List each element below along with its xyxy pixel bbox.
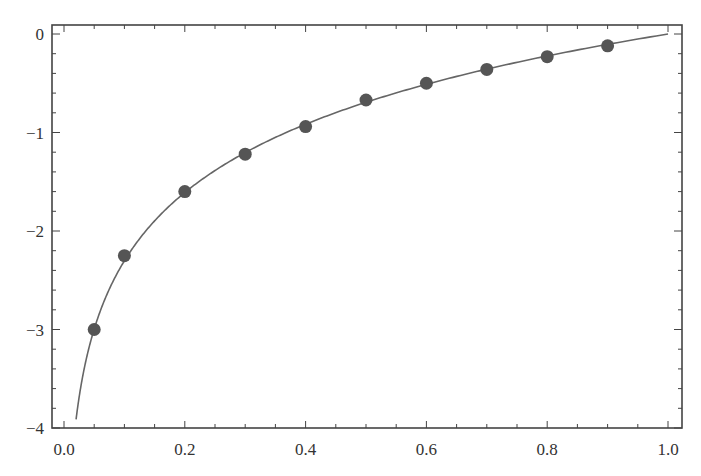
x-axis-ticks — [64, 25, 668, 428]
y-tick-label: −1 — [26, 124, 44, 143]
data-point — [178, 185, 191, 198]
x-axis-tick-labels: 0.00.20.40.60.81.0 — [53, 440, 678, 459]
y-tick-label: −2 — [26, 222, 44, 241]
x-tick-label: 0.4 — [295, 440, 317, 459]
plot-border — [52, 25, 682, 428]
y-tick-label: −4 — [26, 419, 45, 438]
data-point — [88, 323, 101, 336]
data-point — [239, 148, 252, 161]
x-tick-label: 0.2 — [174, 440, 195, 459]
y-axis-tick-labels: 0−1−2−3−4 — [26, 25, 45, 438]
data-point — [299, 120, 312, 133]
x-tick-label: 0.8 — [537, 440, 558, 459]
data-point — [420, 77, 433, 90]
data-point — [118, 249, 131, 262]
chart: 0.00.20.40.60.81.0 0−1−2−3−4 — [0, 0, 701, 476]
data-point — [601, 39, 614, 52]
y-tick-label: −3 — [26, 321, 44, 340]
data-points — [88, 39, 614, 336]
plot-frame — [52, 25, 682, 428]
fit-curve — [76, 34, 668, 419]
x-tick-label: 1.0 — [657, 440, 678, 459]
data-point — [480, 63, 493, 76]
y-tick-label: 0 — [36, 25, 45, 44]
data-point — [541, 50, 554, 63]
x-tick-label: 0.6 — [416, 440, 437, 459]
data-point — [360, 93, 373, 106]
x-tick-label: 0.0 — [53, 440, 74, 459]
